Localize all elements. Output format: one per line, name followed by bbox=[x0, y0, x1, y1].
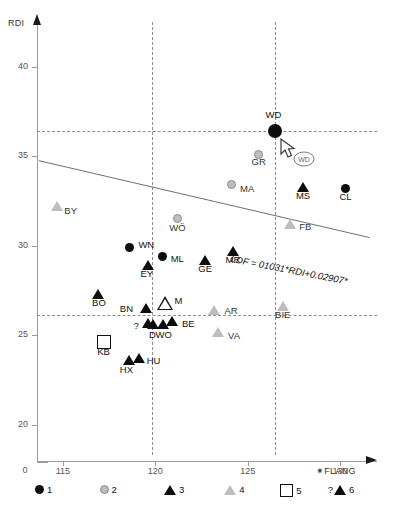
data-point-label: AR bbox=[224, 306, 237, 316]
regression-line-segment bbox=[39, 161, 370, 238]
legend-marker-circle-filled bbox=[35, 485, 44, 494]
data-point-label: HU bbox=[147, 356, 161, 366]
data-point-label: ML bbox=[171, 254, 184, 264]
cursor-tooltip-text: WD bbox=[298, 156, 310, 163]
data-point-label: WÖ bbox=[169, 223, 185, 233]
data-point-label: BIE bbox=[275, 310, 290, 320]
data-point-label: BO bbox=[92, 298, 106, 308]
data-point-label: VA bbox=[228, 331, 240, 341]
data-point-label: MA bbox=[240, 184, 254, 194]
data-point-label: MR bbox=[225, 255, 240, 265]
data-point-triangle-grey[interactable] bbox=[212, 327, 224, 337]
data-point-triangle-grey[interactable] bbox=[208, 305, 220, 315]
legend-marker-question-triangle: ? bbox=[328, 484, 346, 495]
cursor-arrow-glyph bbox=[281, 139, 294, 157]
data-point-square-open[interactable] bbox=[97, 335, 111, 349]
data-point-triangle-filled[interactable] bbox=[133, 353, 145, 363]
data-point-triangle-filled[interactable] bbox=[140, 303, 152, 313]
data-point-triangle-filled[interactable] bbox=[166, 316, 178, 326]
data-point-label: CL bbox=[340, 192, 352, 202]
data-point-label-unknown: ? bbox=[134, 321, 139, 331]
legend-marker-question-glyph: ? bbox=[328, 484, 333, 495]
data-point-triangle-filled[interactable] bbox=[142, 260, 154, 270]
data-point-label: GE bbox=[198, 264, 212, 274]
legend-marker-circle-grey bbox=[100, 485, 109, 494]
legend-item-label: 4 bbox=[239, 484, 244, 495]
data-point-label: FB bbox=[299, 222, 311, 232]
legend-item-6[interactable]: ?6 bbox=[328, 484, 355, 495]
data-point-triangle-filled[interactable] bbox=[297, 182, 309, 192]
legend-item-label: 5 bbox=[296, 485, 301, 496]
regression-line-svg bbox=[0, 0, 395, 512]
data-point-triangle-hollow[interactable] bbox=[157, 296, 173, 310]
legend-marker-square-open bbox=[280, 484, 293, 497]
data-point-triangle-grey[interactable] bbox=[284, 219, 296, 229]
data-point-label: MS bbox=[296, 191, 310, 201]
legend-item-label: 3 bbox=[179, 484, 184, 495]
data-point-label: M bbox=[175, 296, 183, 306]
legend-item-label: 1 bbox=[47, 484, 52, 495]
legend-marker-triangle-filled bbox=[334, 485, 346, 495]
legend-item-1[interactable]: 1 bbox=[35, 484, 52, 495]
data-point-circle-grey[interactable] bbox=[227, 180, 236, 189]
legend-item-label: 2 bbox=[112, 484, 117, 495]
scatter-plot-figure: RDI ⁕FLANG 0 2025303540 115120125130 LDF… bbox=[0, 0, 395, 512]
data-point-triangle-filled[interactable] bbox=[227, 246, 239, 256]
data-point-circle-filled[interactable] bbox=[158, 252, 167, 261]
data-point-triangle-filled[interactable] bbox=[199, 255, 211, 265]
cursor-icon: WD bbox=[279, 138, 319, 172]
legend-marker-triangle-filled bbox=[164, 485, 176, 495]
data-point-circle-filled[interactable] bbox=[125, 243, 134, 252]
data-point-circle-filled[interactable] bbox=[341, 184, 350, 193]
data-point-label: WD bbox=[265, 110, 281, 120]
data-point-label: EY bbox=[141, 269, 154, 279]
data-point-label: BN bbox=[120, 304, 133, 314]
legend: 12345?6 bbox=[33, 484, 373, 506]
data-point-label: BY bbox=[64, 206, 77, 216]
legend-item-5[interactable]: 5 bbox=[280, 484, 301, 497]
data-point-label: BE bbox=[182, 319, 195, 329]
data-point-label: WN bbox=[138, 240, 154, 250]
legend-item-label: 6 bbox=[349, 484, 354, 495]
legend-item-2[interactable]: 2 bbox=[100, 484, 117, 495]
data-point-triangle-grey[interactable] bbox=[51, 201, 63, 211]
data-point-triangle-filled[interactable] bbox=[92, 289, 104, 299]
data-point-label: WO bbox=[155, 330, 171, 340]
legend-marker-triangle-grey bbox=[224, 485, 236, 495]
mouse-cursor-with-tooltip: WD bbox=[279, 138, 319, 176]
data-point-label: HX bbox=[120, 365, 133, 375]
legend-item-3[interactable]: 3 bbox=[164, 484, 184, 495]
legend-item-4[interactable]: 4 bbox=[224, 484, 244, 495]
data-point-triangle-grey[interactable] bbox=[277, 301, 289, 311]
